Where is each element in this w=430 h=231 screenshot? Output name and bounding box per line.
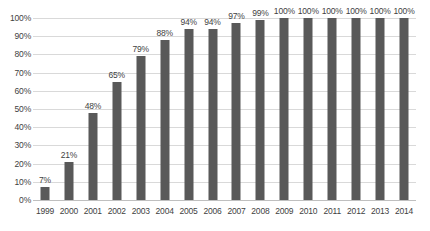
bar (208, 29, 217, 200)
x-axis-tick-label: 2013 (368, 206, 392, 216)
bar-value-label: 100% (394, 6, 415, 16)
bar (376, 18, 385, 200)
y-axis: 0%10%20%30%40%50%60%70%80%90%100% (0, 18, 31, 200)
x-axis-tick-label: 2000 (57, 206, 81, 216)
bar (232, 23, 241, 200)
bar (112, 82, 121, 200)
x-axis-tick-label: 2007 (225, 206, 249, 216)
x-axis-tick-label: 2008 (248, 206, 272, 216)
bar-value-label: 7% (39, 175, 51, 185)
bar-value-label: 99% (252, 8, 268, 18)
bar (160, 40, 169, 200)
bar-group: 99% (248, 0, 272, 200)
y-axis-tick-label: 0% (19, 195, 31, 205)
bar-group: 94% (177, 0, 201, 200)
x-axis-tick-label: 2010 (296, 206, 320, 216)
x-axis-tick-label: 2002 (105, 206, 129, 216)
bar-value-label: 100% (370, 6, 391, 16)
bar-value-label: 79% (133, 44, 149, 54)
x-axis-tick-label: 2014 (392, 206, 416, 216)
bar-value-label: 97% (228, 11, 244, 21)
bar-group: 65% (105, 0, 129, 200)
bar (184, 29, 193, 200)
bar-group: 100% (272, 0, 296, 200)
bar-group: 21% (57, 0, 81, 200)
bar-value-label: 21% (61, 150, 77, 160)
bar (280, 18, 289, 200)
y-axis-tick-label: 90% (15, 31, 31, 41)
bar (40, 187, 49, 200)
bar-value-label: 100% (346, 6, 367, 16)
y-axis-tick-label: 10% (15, 177, 31, 187)
bar (136, 56, 145, 200)
y-axis-tick-label: 70% (15, 68, 31, 78)
y-axis-tick-label: 40% (15, 122, 31, 132)
bar-value-label: 48% (85, 101, 101, 111)
bar-group: 100% (296, 0, 320, 200)
bar (400, 18, 409, 200)
bar-group: 100% (368, 0, 392, 200)
x-axis-tick-label: 2003 (129, 206, 153, 216)
x-axis-tick-label: 2004 (153, 206, 177, 216)
y-axis-tick-label: 100% (10, 13, 31, 23)
bar-group: 94% (201, 0, 225, 200)
bar-value-label: 100% (298, 6, 319, 16)
bar-value-label: 100% (274, 6, 295, 16)
bar-chart: 0%10%20%30%40%50%60%70%80%90%100% 7%21%4… (0, 0, 430, 231)
bar-group: 79% (129, 0, 153, 200)
bar-group: 7% (33, 0, 57, 200)
bar-group: 97% (225, 0, 249, 200)
x-axis-tick-label: 2006 (201, 206, 225, 216)
x-axis-tick-label: 1999 (33, 206, 57, 216)
y-axis-tick-label: 80% (15, 49, 31, 59)
y-axis-tick-label: 50% (15, 104, 31, 114)
x-axis: 1999200020012002200320042005200620072008… (33, 203, 416, 223)
y-axis-tick-label: 30% (15, 140, 31, 150)
bar (304, 18, 313, 200)
bar (64, 162, 73, 200)
bar-group: 100% (320, 0, 344, 200)
bar-value-label: 100% (322, 6, 343, 16)
bar-value-label: 94% (180, 17, 196, 27)
bar-group: 48% (81, 0, 105, 200)
y-axis-tick-label: 60% (15, 86, 31, 96)
bar-value-label: 65% (109, 70, 125, 80)
bars-layer: 7%21%48%65%79%88%94%94%97%99%100%100%100… (33, 0, 416, 231)
x-axis-tick-label: 2011 (320, 206, 344, 216)
x-axis-tick-label: 2012 (344, 206, 368, 216)
y-axis-tick-label: 20% (15, 159, 31, 169)
x-axis-tick-label: 2001 (81, 206, 105, 216)
bar (328, 18, 337, 200)
bar-group: 88% (153, 0, 177, 200)
bar-value-label: 94% (204, 17, 220, 27)
x-axis-tick-label: 2005 (177, 206, 201, 216)
bar-group: 100% (392, 0, 416, 200)
bar (352, 18, 361, 200)
bar-value-label: 88% (156, 28, 172, 38)
bar-group: 100% (344, 0, 368, 200)
bar (256, 20, 265, 200)
x-axis-tick-label: 2009 (272, 206, 296, 216)
bar (88, 113, 97, 200)
